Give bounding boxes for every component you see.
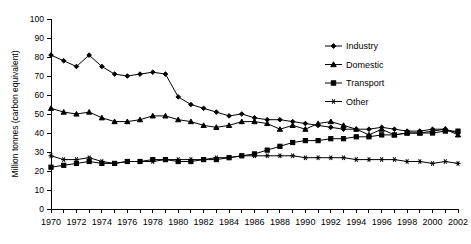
data-point-square-marker	[87, 159, 91, 163]
data-point-asterisk-marker	[366, 157, 371, 162]
data-point-asterisk-marker	[265, 154, 270, 159]
data-point-square-marker	[62, 163, 66, 167]
y-tick-label: 0	[39, 204, 44, 214]
data-point-asterisk-marker	[341, 155, 346, 160]
data-point-diamond-marker	[138, 72, 143, 77]
legend-item-other[interactable]: Other	[325, 97, 369, 107]
x-tick-label: 1998	[397, 217, 417, 227]
series-domestic	[48, 106, 460, 137]
data-point-asterisk-marker	[277, 154, 282, 159]
data-point-square-marker	[367, 135, 371, 139]
data-point-diamond-marker	[112, 72, 117, 77]
data-point-square-marker	[329, 137, 333, 141]
data-point-triangle-marker	[150, 113, 155, 118]
data-point-asterisk-marker	[455, 161, 460, 166]
data-point-square-marker	[49, 165, 53, 169]
data-point-triangle-marker	[188, 119, 193, 124]
x-tick-label: 1992	[321, 217, 341, 227]
data-point-diamond-marker	[163, 72, 168, 77]
y-tick-label: 30	[35, 147, 45, 157]
x-axis-ticks: 1970197219741976197819801982198419861988…	[41, 209, 468, 227]
legend-item-transport[interactable]: Transport	[325, 78, 385, 88]
x-tick-label: 1988	[270, 217, 290, 227]
y-tick-label: 90	[35, 33, 45, 43]
data-point-square-marker	[430, 131, 434, 135]
x-tick-label: 1974	[92, 217, 112, 227]
data-point-triangle-marker	[354, 127, 359, 132]
data-point-square-marker	[392, 133, 396, 137]
data-point-triangle-marker	[61, 110, 66, 115]
line-chart: Million tonnes (carbon equivalent) 01020…	[0, 0, 471, 244]
data-point-diamond-marker	[331, 44, 336, 49]
legend-label: Other	[346, 97, 369, 107]
data-point-asterisk-marker	[61, 157, 66, 162]
data-point-diamond-marker	[125, 74, 130, 79]
y-tick-label: 100	[30, 14, 44, 24]
data-point-asterisk-marker	[443, 159, 448, 164]
data-point-triangle-marker	[341, 123, 346, 128]
data-point-triangle-marker	[87, 110, 92, 115]
y-tick-label: 50	[35, 109, 45, 119]
data-point-triangle-marker	[239, 119, 244, 124]
data-point-diamond-marker	[329, 125, 334, 130]
data-point-triangle-marker	[74, 111, 79, 116]
data-point-square-marker	[354, 135, 358, 139]
legend-item-domestic[interactable]: Domestic	[325, 60, 384, 70]
y-tick-label: 20	[35, 166, 45, 176]
data-point-triangle-marker	[99, 115, 104, 120]
data-point-asterisk-marker	[392, 157, 397, 162]
x-tick-label: 1970	[41, 217, 61, 227]
data-point-diamond-marker	[214, 110, 219, 115]
data-point-square-marker	[303, 139, 307, 143]
chart-container: Million tonnes (carbon equivalent) 01020…	[0, 0, 471, 244]
data-point-square-marker	[265, 148, 269, 152]
data-point-square-marker	[278, 144, 282, 148]
y-tick-label: 60	[35, 90, 45, 100]
x-tick-label: 1984	[219, 217, 239, 227]
data-point-triangle-marker	[328, 119, 333, 124]
data-point-square-marker	[443, 129, 447, 133]
data-point-square-marker	[74, 161, 78, 165]
y-tick-label: 10	[35, 185, 45, 195]
data-point-asterisk-marker	[328, 155, 333, 160]
x-tick-label: 1982	[194, 217, 214, 227]
data-point-square-marker	[291, 140, 295, 144]
y-tick-label: 80	[35, 52, 45, 62]
x-tick-label: 1990	[295, 217, 315, 227]
data-point-triangle-marker	[331, 62, 336, 67]
data-point-diamond-marker	[367, 127, 372, 132]
data-point-diamond-marker	[150, 70, 155, 75]
data-point-triangle-marker	[303, 127, 308, 132]
x-tick-label: 2002	[448, 217, 468, 227]
data-point-asterisk-marker	[303, 155, 308, 160]
data-point-asterisk-marker	[290, 154, 295, 159]
data-point-square-marker	[418, 131, 422, 135]
data-point-diamond-marker	[201, 106, 206, 111]
data-point-asterisk-marker	[354, 157, 359, 162]
data-point-triangle-marker	[112, 119, 117, 124]
legend-label: Industry	[346, 41, 379, 51]
data-point-square-marker	[380, 133, 384, 137]
data-point-triangle-marker	[290, 123, 295, 128]
data-point-asterisk-marker	[331, 99, 336, 104]
data-point-square-marker	[405, 131, 409, 135]
data-point-triangle-marker	[176, 117, 181, 122]
data-point-asterisk-marker	[405, 159, 410, 164]
data-point-diamond-marker	[176, 95, 181, 100]
data-point-square-marker	[341, 137, 345, 141]
x-tick-label: 1972	[66, 217, 86, 227]
data-point-asterisk-marker	[379, 157, 384, 162]
data-point-asterisk-marker	[315, 155, 320, 160]
series-layer	[48, 53, 460, 170]
data-point-square-marker	[331, 81, 335, 85]
data-point-triangle-marker	[125, 119, 130, 124]
data-point-triangle-marker	[226, 123, 231, 128]
data-point-diamond-marker	[278, 117, 283, 122]
data-point-triangle-marker	[48, 106, 53, 111]
legend-item-industry[interactable]: Industry	[325, 41, 379, 51]
y-axis-title-text: Million tonnes (carbon equivalent)	[10, 50, 20, 177]
chart-legend: IndustryDomesticTransportOther	[325, 41, 385, 107]
x-tick-label: 1980	[168, 217, 188, 227]
x-tick-label: 1994	[346, 217, 366, 227]
data-point-diamond-marker	[227, 114, 232, 119]
